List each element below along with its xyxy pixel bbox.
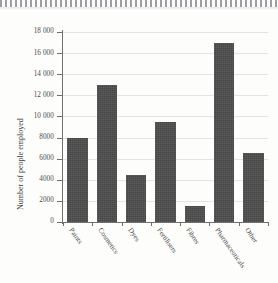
- x-axis-tick: [151, 222, 152, 226]
- y-axis-tick: [57, 53, 62, 54]
- y-axis-tick-label: 18 000: [34, 28, 54, 35]
- y-axis-tick: [57, 116, 62, 117]
- y-axis-tick-label: 8000: [39, 134, 54, 141]
- x-axis-category-label: Fibres: [184, 227, 201, 246]
- bar: [214, 43, 235, 222]
- x-axis-category-label: Paints: [67, 227, 83, 246]
- y-axis-tick: [57, 180, 62, 181]
- y-axis-tick-label: 10 000: [34, 113, 54, 120]
- y-axis-title: Number of people employed: [17, 118, 25, 210]
- chart-page: Number of people employed 02000400060008…: [0, 0, 278, 283]
- x-axis-tick: [92, 222, 93, 226]
- y-axis-tick-label: 6000: [39, 155, 54, 162]
- x-axis-category-label: Cosmetics: [96, 227, 119, 256]
- x-axis-tick: [180, 222, 181, 226]
- y-axis-tick: [57, 32, 62, 33]
- y-axis-tick-label: 4000: [39, 176, 54, 183]
- y-axis-tick-label: 14 000: [34, 71, 54, 78]
- x-axis-tick: [268, 222, 269, 226]
- x-axis-category-label: Dyes: [125, 227, 140, 243]
- bar: [126, 175, 147, 223]
- bar-chart: Number of people employed 02000400060008…: [0, 0, 278, 283]
- x-axis-category-label: Other: [242, 227, 258, 245]
- y-axis-tick: [57, 74, 62, 75]
- bar: [97, 85, 118, 222]
- x-axis-tick: [122, 222, 123, 226]
- x-axis-tick: [209, 222, 210, 226]
- y-axis-tick-label: 16 000: [34, 50, 54, 57]
- x-axis-tick: [63, 222, 64, 226]
- x-axis-category-label: Pharmaceuticals: [213, 227, 246, 270]
- x-axis-category-label: Fertilisers: [155, 227, 178, 255]
- y-axis-tick: [57, 95, 62, 96]
- y-axis-tick-label: 0: [50, 218, 54, 225]
- bar: [185, 206, 206, 222]
- bar: [155, 122, 176, 222]
- y-axis-tick: [57, 138, 62, 139]
- y-axis-tick-label: 12 000: [34, 92, 54, 99]
- bar: [243, 153, 264, 222]
- y-axis-tick: [57, 201, 62, 202]
- y-axis-tick: [57, 159, 62, 160]
- x-axis-tick: [239, 222, 240, 226]
- plot-area: [63, 32, 268, 222]
- y-axis-tick: [57, 222, 62, 223]
- bar: [67, 138, 88, 222]
- y-axis-tick-label: 2000: [39, 197, 54, 204]
